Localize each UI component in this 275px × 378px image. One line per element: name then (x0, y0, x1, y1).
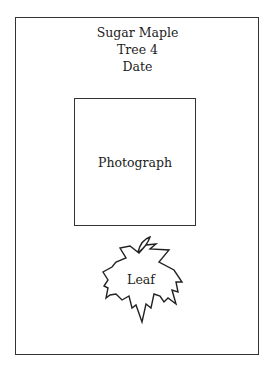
leaf-label: Leaf (86, 272, 196, 287)
tree-number: Tree 4 (0, 42, 275, 58)
species-name: Sugar Maple (0, 25, 275, 41)
photograph-label: Photograph (98, 155, 172, 170)
date-label: Date (0, 59, 275, 75)
photograph-placeholder: Photograph (74, 98, 196, 226)
